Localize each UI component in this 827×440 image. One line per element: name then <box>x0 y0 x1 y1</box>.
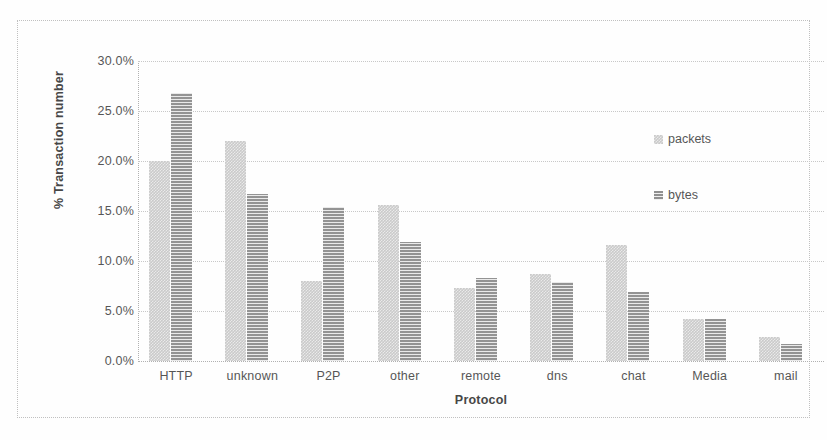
x-tick-label: dns <box>519 369 595 383</box>
y-tick-label: 0.0% <box>48 354 134 368</box>
bar-bytes[interactable] <box>781 344 802 361</box>
gridline <box>138 361 824 362</box>
bar-packets[interactable] <box>149 161 170 361</box>
bar-bytes[interactable] <box>552 282 573 361</box>
y-axis-tick-labels: 0.0%5.0%10.0%15.0%20.0%25.0%30.0% <box>38 61 134 361</box>
bar-group <box>290 61 366 361</box>
bar-packets[interactable] <box>454 288 475 361</box>
x-tick-label: HTTP <box>138 369 214 383</box>
bar-bytes[interactable] <box>628 292 649 361</box>
x-axis-title: Protocol <box>138 393 824 407</box>
bar-bytes[interactable] <box>400 242 421 361</box>
bar-group <box>519 61 595 361</box>
bar-group <box>748 61 824 361</box>
bar-group <box>138 61 214 361</box>
bar-bytes[interactable] <box>476 278 497 361</box>
y-tick-label: 25.0% <box>48 104 134 118</box>
chart-frame: % Transaction number 0.0%5.0%10.0%15.0%2… <box>17 20 810 418</box>
legend-label-bytes: bytes <box>668 188 698 202</box>
y-tick-label: 30.0% <box>48 54 134 68</box>
bar-group <box>443 61 519 361</box>
bar-packets[interactable] <box>759 337 780 361</box>
x-tick-label: Media <box>672 369 748 383</box>
packets-swatch-icon <box>654 135 663 144</box>
x-tick-label: unknown <box>214 369 290 383</box>
y-tick-label: 5.0% <box>48 304 134 318</box>
bar-packets[interactable] <box>606 245 627 361</box>
x-tick-label: other <box>367 369 443 383</box>
y-tick-label: 10.0% <box>48 254 134 268</box>
bytes-swatch-icon <box>654 191 663 200</box>
bar-packets[interactable] <box>683 319 704 361</box>
bar-group <box>595 61 671 361</box>
y-tick-label: 20.0% <box>48 154 134 168</box>
bar-packets[interactable] <box>301 281 322 361</box>
bar-bytes[interactable] <box>323 207 344 361</box>
legend-entry-bytes[interactable]: bytes <box>654 188 698 202</box>
x-tick-label: P2P <box>290 369 366 383</box>
bar-group <box>672 61 748 361</box>
bar-packets[interactable] <box>530 274 551 361</box>
y-tick-label: 15.0% <box>48 204 134 218</box>
x-tick-label: chat <box>595 369 671 383</box>
x-axis-tick-labels: HTTPunknownP2PotherremotednschatMediamai… <box>138 369 824 391</box>
bar-group <box>214 61 290 361</box>
bar-packets[interactable] <box>225 141 246 361</box>
bar-bytes[interactable] <box>171 93 192 361</box>
x-tick-label: mail <box>748 369 824 383</box>
bar-bytes[interactable] <box>705 319 726 361</box>
bar-group <box>367 61 443 361</box>
bar-packets[interactable] <box>378 205 399 361</box>
x-tick-label: remote <box>443 369 519 383</box>
legend-label-packets: packets <box>668 132 711 146</box>
legend-entry-packets[interactable]: packets <box>654 132 711 146</box>
plot-area <box>138 61 824 361</box>
bar-bytes[interactable] <box>247 194 268 361</box>
